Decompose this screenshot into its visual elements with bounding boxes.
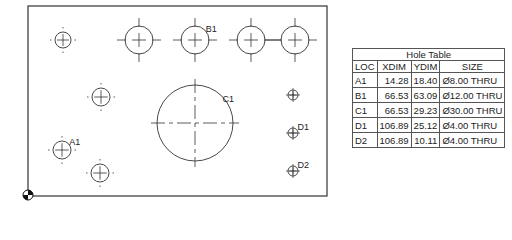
hole-label: C1 [223,94,235,104]
cell-loc: C1 [353,103,378,118]
hole-label: D1 [298,122,310,132]
hole-label: B1 [206,24,217,34]
hole-table-title: Hole Table [353,49,505,61]
table-row: D2 106.89 10.11 Ø4.00 THRU [353,133,505,148]
hole-label: D2 [298,160,310,170]
table-row: B1 66.53 63.09 Ø12.00 THRU [353,88,505,103]
cell-xdim: 106.89 [377,118,411,133]
header-size: SIZE [440,61,505,73]
header-ydim: YDIM [411,61,440,73]
origin-quadrant [28,190,33,195]
cell-ydim: 10.11 [411,133,440,148]
cell-loc: D2 [353,133,378,148]
table-row: A1 14.28 18.40 Ø8.00 THRU [353,73,505,88]
cell-loc: D1 [353,118,378,133]
cell-loc: B1 [353,88,378,103]
cell-ydim: 63.09 [411,88,440,103]
cell-loc: A1 [353,73,378,88]
hole-table: Hole Table LOC XDIM YDIM SIZE A1 14.28 1… [352,48,505,148]
header-xdim: XDIM [377,61,411,73]
cell-ydim: 18.40 [411,73,440,88]
cell-xdim: 66.53 [377,103,411,118]
cell-ydim: 29.23 [411,103,440,118]
header-loc: LOC [353,61,378,73]
cell-size: Ø4.00 THRU [440,133,505,148]
table-row: C1 66.53 29.23 Ø30.00 THRU [353,103,505,118]
cell-xdim: 14.28 [377,73,411,88]
table-row: D1 106.89 25.12 Ø4.00 THRU [353,118,505,133]
cell-ydim: 25.12 [411,118,440,133]
origin-quadrant [23,195,28,200]
hole-label: A1 [69,137,80,147]
cell-size: Ø30.00 THRU [440,103,505,118]
cell-xdim: 106.89 [377,133,411,148]
cell-size: Ø12.00 THRU [440,88,505,103]
cell-size: Ø4.00 THRU [440,118,505,133]
cell-xdim: 66.53 [377,88,411,103]
cell-size: Ø8.00 THRU [440,73,505,88]
